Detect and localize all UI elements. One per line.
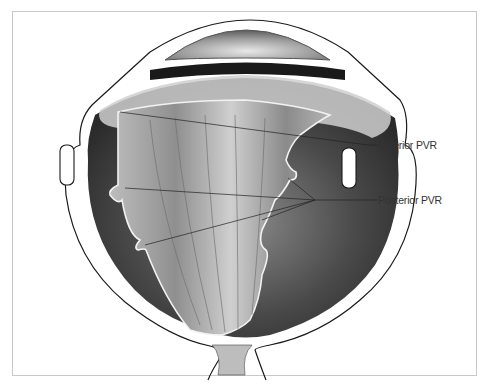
label-anterior-pvr: Anterior PVR [378, 139, 437, 151]
left-lateral-structure [60, 145, 74, 185]
label-posterior-pvr: Posterior PVR [378, 194, 442, 206]
cornea [165, 30, 330, 60]
optic-nerve [212, 345, 252, 375]
right-lateral-structure [342, 148, 356, 188]
